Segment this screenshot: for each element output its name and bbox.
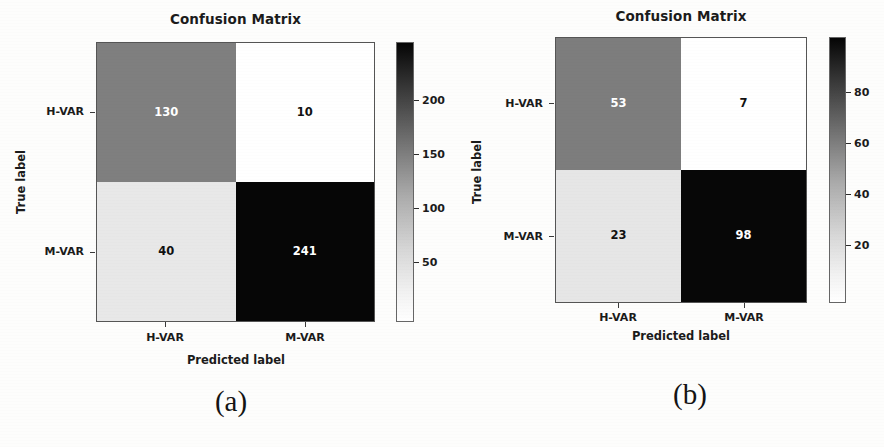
y-axis-label: True label: [14, 137, 28, 227]
y-tick-mark-1: [90, 112, 95, 113]
x-axis-label: Predicted label: [581, 329, 781, 343]
colorbar-tick-mark-2: [846, 194, 851, 195]
colorbar-tick-label-20: 20: [854, 239, 869, 252]
matrix-cell-true-hvar-pred-hvar: 130: [97, 43, 236, 182]
x-tick-mark-2: [305, 322, 306, 327]
confusion-matrix-grid: 130 10 40 241: [96, 42, 375, 322]
colorbar-tick-label-60: 60: [854, 137, 869, 150]
x-tick-label-mvar: M-VAR: [255, 331, 355, 344]
cell-value: 241: [293, 246, 317, 258]
colorbar-tick-mark-1: [846, 245, 851, 246]
x-tick-mark-2: [744, 303, 745, 308]
matrix-cell-true-hvar-pred-mvar: 7: [681, 38, 806, 170]
x-tick-label-hvar: H-VAR: [568, 311, 668, 324]
x-tick-mark-1: [165, 322, 166, 327]
subfigure-a: Confusion Matrix 130 10 40 241 H-VAR M-V…: [0, 0, 442, 447]
cell-value: 10: [297, 107, 313, 119]
colorbar-tick-mark-4: [846, 92, 851, 93]
y-tick-label-hvar: H-VAR: [470, 97, 543, 110]
matrix-cell-true-mvar-pred-hvar: 40: [97, 182, 236, 321]
colorbar-tick-mark-3: [846, 143, 851, 144]
cell-value: 98: [735, 230, 751, 242]
colorbar: [829, 37, 846, 303]
colorbar: [396, 42, 414, 322]
x-tick-label-hvar: H-VAR: [115, 331, 215, 344]
y-tick-label-mvar: M-VAR: [10, 245, 84, 258]
y-axis-label: True label: [470, 127, 484, 217]
y-tick-label-mvar: M-VAR: [470, 230, 543, 243]
matrix-cell-true-mvar-pred-mvar: 98: [681, 170, 806, 302]
cell-value: 7: [739, 98, 747, 110]
cell-value: 53: [610, 98, 626, 110]
colorbar-gradient: [830, 38, 845, 302]
colorbar-tick-mark-4: [414, 100, 419, 101]
x-axis-label: Predicted label: [136, 353, 336, 367]
x-tick-mark-1: [618, 303, 619, 308]
colorbar-tick-label-40: 40: [854, 188, 869, 201]
matrix-cell-true-mvar-pred-mvar: 241: [236, 182, 375, 321]
subfigure-caption-a: (a): [181, 385, 281, 418]
colorbar-tick-mark-2: [414, 208, 419, 209]
y-tick-mark-2: [90, 252, 95, 253]
matrix-cell-true-hvar-pred-hvar: 53: [556, 38, 681, 170]
cell-value: 23: [610, 230, 626, 242]
y-tick-label-hvar: H-VAR: [10, 105, 84, 118]
chart-title: Confusion Matrix: [96, 11, 375, 27]
colorbar-tick-mark-1: [414, 262, 419, 263]
y-tick-mark-2: [549, 236, 554, 237]
colorbar-tick-mark-3: [414, 154, 419, 155]
x-tick-label-mvar: M-VAR: [694, 311, 794, 324]
y-tick-mark-1: [549, 103, 554, 104]
colorbar-gradient: [397, 43, 413, 321]
confusion-matrix-grid: 53 7 23 98: [555, 37, 807, 303]
matrix-cell-true-mvar-pred-hvar: 23: [556, 170, 681, 302]
cell-value: 40: [158, 246, 174, 258]
chart-title: Confusion Matrix: [555, 8, 807, 24]
subfigure-caption-b: (b): [640, 378, 740, 411]
figure-canvas: Confusion Matrix 130 10 40 241 H-VAR M-V…: [0, 0, 884, 447]
cell-value: 130: [154, 107, 178, 119]
colorbar-tick-label-80: 80: [854, 86, 869, 99]
subfigure-b: Confusion Matrix 53 7 23 98 H-VAR M-VAR …: [442, 0, 884, 447]
colorbar-tick-label-50: 50: [422, 256, 437, 269]
matrix-cell-true-hvar-pred-mvar: 10: [236, 43, 375, 182]
